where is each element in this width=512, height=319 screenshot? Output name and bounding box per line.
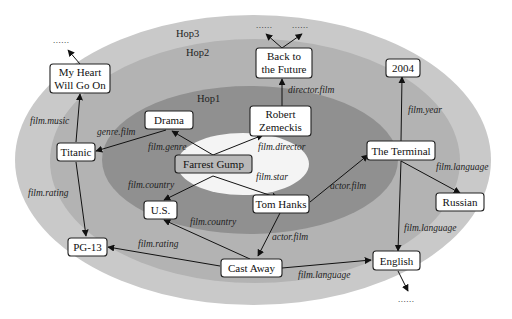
- edge-label-film-year: film.year: [408, 105, 442, 115]
- knowledge-graph-diagram: Hop3 Hop2 Hop1: [0, 0, 512, 319]
- ellipsis-bttf-right: ......: [292, 20, 309, 30]
- edge-label-genre-film: genre.film: [97, 127, 136, 137]
- edge-label-film-language-russian: film.language: [436, 162, 489, 172]
- node-forrest-gump: Farrest Gump: [175, 155, 252, 173]
- svg-text:Titanic: Titanic: [61, 146, 92, 158]
- ellipsis-bttf-left: ......: [256, 20, 273, 30]
- node-my-heart-will-go-on: My Heart Will Go On: [50, 64, 110, 93]
- node-english: English: [373, 251, 420, 270]
- edge-label-film-music: film.music: [30, 116, 70, 126]
- hop1-label: Hop1: [197, 93, 220, 104]
- svg-text:U.S.: U.S.: [151, 204, 171, 216]
- node-us: U.S.: [144, 201, 177, 219]
- svg-text:the Future: the Future: [262, 63, 307, 75]
- hop2-label: Hop2: [186, 47, 209, 58]
- edge-label-film-country-fg: film.country: [128, 180, 175, 190]
- svg-text:Will Go On: Will Go On: [54, 79, 106, 91]
- edge-label-film-rating-castaway: film.rating: [138, 239, 179, 249]
- edge-label-film-director: film.director: [258, 142, 306, 152]
- edge-label-director-film: director.film: [288, 85, 334, 95]
- svg-text:Farrest Gump: Farrest Gump: [183, 158, 244, 170]
- edge-label-film-star: film.star: [256, 172, 288, 182]
- ellipsis-english: ......: [398, 294, 415, 304]
- svg-text:Zemeckis: Zemeckis: [259, 121, 302, 133]
- node-2004: 2004: [386, 59, 420, 77]
- hop3-label: Hop3: [176, 28, 199, 39]
- node-robert-zemeckis: Robert Zemeckis: [250, 106, 311, 136]
- ellipsis-my-heart: ......: [53, 35, 70, 45]
- svg-text:Cast Away: Cast Away: [228, 262, 275, 274]
- edge-label-actor-film-castaway: actor.film: [272, 232, 308, 242]
- edge-label-film-language-castaway: film.language: [298, 270, 351, 280]
- svg-text:English: English: [380, 255, 414, 267]
- svg-text:2004: 2004: [392, 62, 415, 74]
- svg-text:My Heart: My Heart: [59, 66, 101, 78]
- edge-label-film-rating-titanic: film.rating: [28, 188, 69, 198]
- node-drama: Drama: [145, 111, 193, 129]
- svg-text:Drama: Drama: [154, 114, 184, 126]
- edge-label-film-language-english: film.language: [404, 223, 457, 233]
- node-cast-away: Cast Away: [221, 259, 282, 277]
- svg-text:Tom Hanks: Tom Hanks: [256, 198, 307, 210]
- node-back-to-the-future: Back to the Future: [256, 48, 312, 78]
- node-the-terminal: The Terminal: [367, 141, 435, 160]
- svg-text:Back to: Back to: [267, 50, 301, 62]
- svg-text:Russian: Russian: [443, 196, 478, 208]
- svg-text:The Terminal: The Terminal: [371, 145, 430, 157]
- node-titanic: Titanic: [57, 143, 95, 161]
- edge-label-actor-film-terminal: actor.film: [330, 181, 366, 191]
- node-tom-hanks: Tom Hanks: [253, 195, 309, 213]
- node-russian: Russian: [436, 193, 484, 211]
- edge-label-film-country-castaway: film.country: [190, 217, 237, 227]
- edge-label-film-genre: film.genre: [148, 142, 186, 152]
- svg-text:Robert: Robert: [266, 108, 296, 120]
- svg-text:PG-13: PG-13: [73, 241, 102, 253]
- node-pg-13: PG-13: [68, 238, 107, 256]
